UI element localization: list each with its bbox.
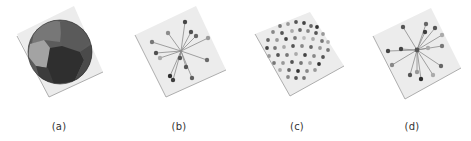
segmented-sphere-figure <box>0 0 118 118</box>
panel-label: (b) <box>120 121 238 132</box>
point-cloud-figure <box>238 0 356 118</box>
panel-label: (a) <box>0 121 118 132</box>
panel-label: (d) <box>353 121 471 132</box>
star-graph-figure <box>120 0 238 118</box>
panel-label: (c) <box>238 121 356 132</box>
panel-d: (d) <box>353 0 471 141</box>
panel-b: (b) <box>120 0 238 141</box>
ground-plane <box>255 12 344 96</box>
panel-c: (c) <box>238 0 356 141</box>
panel-a: (a) <box>0 0 118 141</box>
star-graph-figure <box>353 0 471 118</box>
